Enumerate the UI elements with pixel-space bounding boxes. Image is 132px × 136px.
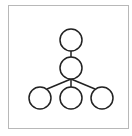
node-leaf-left <box>29 87 51 109</box>
hierarchy-tree-icon <box>0 0 132 136</box>
node-hub <box>60 57 82 79</box>
node-root <box>60 29 82 51</box>
node-leaf-right <box>91 87 113 109</box>
node-leaf-center <box>60 87 82 109</box>
